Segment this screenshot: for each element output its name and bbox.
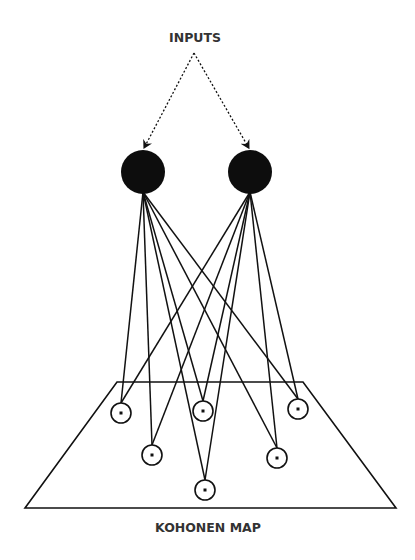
input-arrow-2 [194,53,249,147]
connection-line [205,192,250,480]
input-node-2 [228,150,272,194]
map-node-center-dot [151,454,154,457]
input-arrow-1 [144,53,194,147]
connection-line [250,192,277,448]
map-node-center-dot [297,408,300,411]
map-node-center-dot [276,457,279,460]
inputs-label: INPUTS [164,30,226,45]
kohonen-diagram [0,0,415,560]
kohonen-map-label: KOHONEN MAP [146,520,270,535]
map-node [288,399,308,419]
map-node [193,401,213,421]
connection-lines [121,192,298,480]
connection-line [143,192,203,401]
map-node [267,448,287,468]
input-nodes [121,150,272,194]
map-node-center-dot [202,410,205,413]
map-node-center-dot [204,489,207,492]
input-node-1 [121,150,165,194]
map-node [111,403,131,423]
input-arrows [144,53,248,147]
map-node [142,445,162,465]
map-node-center-dot [120,412,123,415]
map-node [195,480,215,500]
